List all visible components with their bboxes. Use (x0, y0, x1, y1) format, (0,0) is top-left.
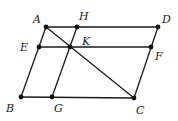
segment-BC (21, 97, 134, 98)
segment-HG (52, 27, 77, 97)
point-C (132, 96, 137, 101)
label-F: F (154, 50, 163, 63)
point-D (156, 25, 161, 30)
point-E (37, 45, 42, 50)
label-K: K (81, 35, 91, 48)
point-B (19, 95, 24, 100)
point-F (149, 45, 154, 50)
label-G: G (54, 102, 63, 115)
label-B: B (5, 102, 14, 115)
label-C: C (136, 104, 145, 117)
label-D: D (161, 13, 171, 26)
label-A: A (32, 13, 41, 26)
point-G (50, 95, 55, 100)
label-E: E (19, 41, 28, 54)
geometry-diagram: AHDEKFBGC (0, 0, 178, 121)
point-K (68, 45, 73, 50)
segment-AB (21, 27, 46, 97)
label-H: H (78, 10, 89, 23)
point-A (44, 25, 49, 30)
point-H (75, 25, 80, 30)
